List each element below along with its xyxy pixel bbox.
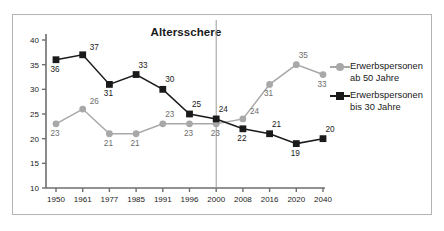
x-tick-label: 1991: [154, 195, 172, 204]
data-point-label: 33: [317, 80, 327, 89]
legend-circle-icon: [330, 61, 350, 72]
x-tick-label: 2008: [234, 195, 252, 204]
x-tick-label: 1977: [101, 195, 119, 204]
x-tick-label: 2020: [287, 195, 305, 204]
legend-label-line2: ab 50 Jahre: [350, 73, 399, 83]
legend-label-line1: Erwerbspersonen: [350, 90, 423, 100]
data-point: [53, 56, 60, 63]
data-point-label: 23: [165, 110, 175, 119]
data-point: [106, 81, 113, 88]
data-point-label: 36: [50, 65, 60, 74]
data-point: [133, 130, 140, 137]
y-tick-label: 20: [30, 135, 39, 144]
data-point-label: 19: [291, 149, 301, 158]
data-point-label: 26: [90, 97, 100, 106]
x-tick-label: 1985: [127, 195, 145, 204]
data-point: [266, 130, 273, 137]
data-point-label: 23: [211, 129, 221, 138]
legend-label-bis-30: Erwerbspersonen bis 30 Jahre: [350, 89, 423, 113]
data-point: [159, 86, 166, 93]
data-point: [79, 106, 86, 113]
x-tick-label: 2000: [207, 195, 225, 204]
top-cropped-text: [12, 1, 82, 7]
chart-legend: Erwerbspersonen ab 50 Jahre Erwerbsperso…: [330, 60, 434, 118]
data-point-label: 24: [219, 105, 229, 114]
data-point-label: 23: [50, 129, 60, 138]
data-point: [320, 71, 327, 78]
data-point: [240, 125, 247, 132]
data-point: [213, 116, 220, 123]
legend-square-icon: [330, 90, 350, 101]
data-point-label: 20: [325, 125, 335, 134]
x-tick-label: 1961: [74, 195, 92, 204]
data-point-label: 23: [184, 129, 194, 138]
legend-item-bis-30: Erwerbspersonen bis 30 Jahre: [330, 89, 434, 113]
x-tick-label: 1996: [181, 195, 199, 204]
legend-label-line2: bis 30 Jahre: [350, 102, 401, 112]
data-point: [106, 130, 113, 137]
data-point: [266, 81, 273, 88]
y-tick-label: 25: [30, 110, 39, 119]
data-point-label: 24: [250, 107, 260, 116]
data-point: [293, 61, 300, 68]
data-point: [240, 116, 247, 123]
x-tick-label: 2016: [261, 195, 279, 204]
y-tick-label: 35: [30, 61, 39, 70]
data-point-label: 37: [90, 43, 100, 52]
x-tick-label: 2040: [314, 195, 332, 204]
data-point-label: 22: [237, 134, 247, 143]
y-tick-label: 40: [30, 36, 39, 45]
data-point-label: 33: [139, 61, 149, 70]
legend-label-line1: Erwerbspersonen: [350, 61, 423, 71]
data-point-label: 21: [272, 120, 282, 129]
data-point: [186, 120, 193, 127]
y-tick-label: 30: [30, 85, 39, 94]
data-point: [186, 111, 193, 118]
data-point: [293, 140, 300, 147]
y-tick-label: 15: [30, 159, 39, 168]
y-tick-label: 10: [30, 184, 39, 193]
data-point: [320, 135, 327, 142]
data-point-label: 35: [299, 51, 309, 60]
data-point: [79, 51, 86, 58]
x-tick-label: 1950: [47, 195, 65, 204]
data-point: [159, 120, 166, 127]
data-point-label: 31: [104, 89, 114, 98]
data-point-label: 21: [131, 139, 141, 148]
data-point-label: 30: [165, 75, 175, 84]
data-point-label: 21: [104, 139, 114, 148]
data-point-label: 31: [264, 89, 274, 98]
data-point: [133, 71, 140, 78]
data-point: [53, 120, 60, 127]
data-point-label: 25: [192, 100, 202, 109]
legend-item-ab-50: Erwerbspersonen ab 50 Jahre: [330, 60, 434, 84]
legend-label-ab-50: Erwerbspersonen ab 50 Jahre: [350, 60, 423, 84]
